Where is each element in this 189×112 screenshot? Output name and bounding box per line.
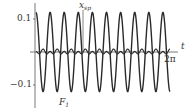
f1-curve-label: F1: [59, 98, 69, 108]
x-axis-label: t: [181, 42, 185, 51]
y-tick-label-neg: −0.1: [10, 80, 32, 89]
f1-label-sub: 1: [65, 101, 69, 108]
y-axis: [33, 3, 35, 108]
xsp-curve-label: xsp: [79, 1, 91, 11]
y-tick-label-pos: 0.1: [17, 14, 31, 23]
xsp-label-sub: sp: [84, 4, 91, 11]
x-end-label: 2π: [164, 55, 176, 64]
